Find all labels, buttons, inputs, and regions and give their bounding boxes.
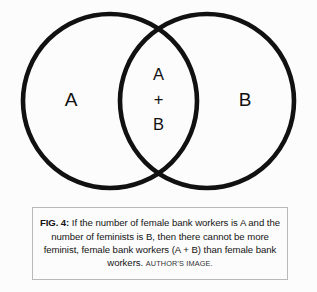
figure-root: A B A + B FIG. 4: If the number of femal… xyxy=(0,0,317,292)
figure-caption-credit: AUTHOR'S IMAGE. xyxy=(146,259,213,268)
venn-diagram-svg: A B A + B xyxy=(0,0,317,200)
venn-right-label: B xyxy=(239,89,252,110)
venn-right-circle xyxy=(120,14,294,188)
figure-caption-number: FIG. 4: xyxy=(40,217,69,228)
venn-intersection-label-a: A xyxy=(153,65,164,83)
venn-intersection-label-b: B xyxy=(153,115,164,133)
figure-caption-text: FIG. 4: If the number of female bank wor… xyxy=(35,216,285,271)
venn-left-circle xyxy=(23,14,197,188)
figure-caption-box: FIG. 4: If the number of female bank wor… xyxy=(32,207,288,280)
venn-intersection-label-plus: + xyxy=(154,90,164,108)
venn-diagram: A B A + B xyxy=(0,0,317,200)
venn-left-label: A xyxy=(65,89,78,110)
